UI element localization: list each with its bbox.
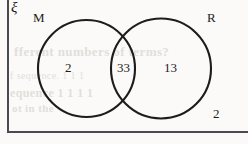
set-label-R: R (207, 10, 216, 26)
region-count-both: 33 (117, 60, 130, 76)
region-count-neither: 2 (213, 106, 220, 122)
set-label-M: M (33, 10, 45, 26)
region-count-m-only: 2 (65, 60, 72, 76)
universal-set-label: ξ (11, 0, 17, 16)
region-count-r-only: 13 (164, 60, 177, 76)
venn-diagram-figure: fferent numbers of terms? f sequence. 1 … (0, 0, 248, 144)
